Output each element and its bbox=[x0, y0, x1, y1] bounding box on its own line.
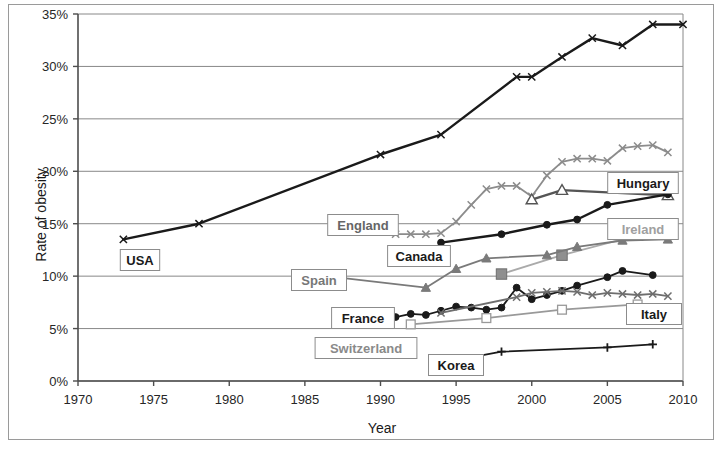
series-label-england[interactable]: England bbox=[328, 215, 399, 236]
series-label-hungary[interactable]: Hungary bbox=[608, 173, 679, 194]
series-marker bbox=[438, 239, 445, 246]
y-tick-label: 5% bbox=[49, 322, 68, 337]
label-text: Hungary bbox=[617, 176, 671, 191]
series-marker bbox=[407, 310, 414, 317]
series-marker bbox=[558, 53, 565, 60]
series-marker bbox=[483, 306, 490, 313]
series-line bbox=[335, 239, 668, 287]
series-spain bbox=[331, 235, 673, 292]
series-marker bbox=[574, 282, 581, 289]
series-usa bbox=[120, 21, 687, 243]
label-text: Italy bbox=[641, 307, 668, 322]
x-tick-label: 1995 bbox=[442, 392, 471, 407]
label-text: Canada bbox=[396, 249, 444, 264]
series-label-usa[interactable]: USA bbox=[120, 250, 159, 271]
x-tick-label: 2005 bbox=[593, 392, 622, 407]
x-axis-tick-labels: 197019751980198519901995200020052010 bbox=[64, 392, 698, 407]
x-axis-title: Year bbox=[368, 420, 397, 436]
series-line bbox=[456, 344, 653, 360]
series-marker bbox=[649, 340, 657, 348]
series-label-korea[interactable]: Korea bbox=[429, 355, 484, 376]
series-marker bbox=[604, 274, 611, 281]
y-tick-label: 35% bbox=[42, 7, 68, 22]
series-line bbox=[123, 24, 683, 239]
series-marker bbox=[543, 172, 550, 179]
series-marker bbox=[422, 312, 429, 319]
series-marker bbox=[406, 320, 415, 329]
x-tick-label: 2000 bbox=[517, 392, 546, 407]
series-marker bbox=[528, 296, 535, 303]
series-marker bbox=[558, 305, 567, 314]
x-tick-label: 1975 bbox=[139, 392, 168, 407]
series-marker bbox=[664, 149, 671, 156]
series-marker bbox=[482, 314, 491, 323]
chart-figure: 0%5%10%15%20%25%30%35% 19701975198019851… bbox=[0, 0, 724, 453]
series-marker bbox=[649, 272, 656, 279]
series-marker bbox=[498, 304, 505, 311]
series-line bbox=[411, 304, 638, 324]
data-series-group bbox=[120, 21, 687, 364]
x-tick-label: 1990 bbox=[366, 392, 395, 407]
series-marker bbox=[574, 216, 581, 223]
y-tick-label: 30% bbox=[42, 59, 68, 74]
series-label-italy[interactable]: Italy bbox=[627, 304, 682, 325]
series-label-canada[interactable]: Canada bbox=[388, 246, 451, 267]
series-marker bbox=[497, 347, 505, 355]
x-tick-label: 1980 bbox=[215, 392, 244, 407]
y-tick-label: 25% bbox=[42, 112, 68, 127]
label-text: France bbox=[342, 311, 385, 326]
label-text: Switzerland bbox=[330, 341, 402, 356]
x-tick-label: 1970 bbox=[64, 392, 93, 407]
series-marker bbox=[603, 343, 611, 351]
label-text: England bbox=[337, 218, 388, 233]
series-marker bbox=[604, 201, 611, 208]
series-marker bbox=[513, 284, 520, 291]
y-axis-title: Rate of obesity bbox=[33, 168, 49, 261]
series-labels-group: USAHungaryEnglandCanadaIrelandSpainFranc… bbox=[120, 173, 681, 376]
series-label-switzerland[interactable]: Switzerland bbox=[315, 338, 417, 359]
obesity-line-chart: 0%5%10%15%20%25%30%35% 19701975198019851… bbox=[0, 0, 724, 453]
label-text: USA bbox=[126, 253, 154, 268]
series-label-ireland[interactable]: Ireland bbox=[608, 219, 679, 240]
series-marker bbox=[498, 231, 505, 238]
series-marker bbox=[619, 268, 626, 275]
x-tick-label: 1985 bbox=[290, 392, 319, 407]
axis-ticks-group bbox=[73, 14, 683, 386]
series-marker bbox=[543, 221, 550, 228]
series-label-france[interactable]: France bbox=[332, 308, 395, 329]
series-marker bbox=[468, 201, 475, 208]
y-tick-label: 10% bbox=[42, 269, 68, 284]
label-text: Korea bbox=[438, 358, 476, 373]
label-text: Spain bbox=[301, 273, 336, 288]
x-tick-label: 2010 bbox=[669, 392, 698, 407]
series-marker bbox=[496, 269, 506, 279]
series-label-spain[interactable]: Spain bbox=[292, 270, 347, 291]
y-tick-label: 0% bbox=[49, 374, 68, 389]
label-text: Ireland bbox=[622, 222, 665, 237]
